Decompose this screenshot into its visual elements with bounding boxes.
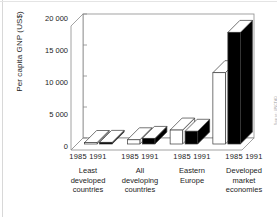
plot-area [71,14,254,150]
x-group-developed-market: 1985 1991 Developed market economies [216,152,272,195]
left-rule [2,0,3,217]
bar-1991-group-4 [228,20,253,144]
x-group-name: Least developed countries [60,166,116,195]
x-group-years: 1985 1991 [112,152,168,162]
x-group-eastern-europe: 1985 1991 Eastern Europe [164,152,220,185]
chart-figure: Per capita GNP (US$) 20 000 15 000 10 00… [0,0,277,217]
x-group-name-line: Europe [164,176,220,186]
y-tick-0: 0 [24,142,68,151]
x-group-name-line: Least [60,166,116,176]
x-group-least-developed: 1985 1991 Least developed countries [60,152,116,195]
y-tick-15000: 15 000 [24,46,68,55]
x-group-years: 1985 1991 [164,152,220,162]
x-group-name-line: market [216,176,272,186]
x-group-name-line: developed [60,176,116,186]
x-group-name: All developing countries [112,166,168,195]
x-group-name-line: economies [216,185,272,195]
x-group-name-line: developing [112,176,168,186]
x-group-name: Eastern Europe [164,166,220,185]
y-tick-20000: 20 000 [24,14,68,23]
x-group-years: 1985 1991 [60,152,116,162]
x-group-name-line: Developed [216,166,272,176]
x-axis-labels: 1985 1991 Least developed countries 1985… [60,152,272,214]
x-group-name-line: Eastern [164,166,220,176]
x-group-years: 1985 1991 [216,152,272,162]
x-group-name-line: All [112,166,168,176]
y-tick-5000: 5 000 [24,110,68,119]
source-credit: Source: UNCTAD [274,96,277,125]
x-group-name: Developed market economies [216,166,272,195]
bar-series-layer [71,14,254,150]
y-tick-10000: 10 000 [24,78,68,87]
x-group-name-line: countries [60,185,116,195]
x-group-name-line: countries [112,185,168,195]
x-group-all-developing: 1985 1991 All developing countries [112,152,168,195]
